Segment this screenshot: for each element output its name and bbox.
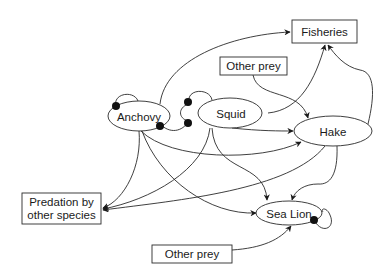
edge-squid-hake — [232, 128, 293, 131]
other-prey-top-label: Other prey — [226, 60, 281, 72]
dot-squid-self — [184, 98, 192, 106]
dot-anchovy-self — [112, 102, 120, 110]
edge-squid-self — [189, 91, 212, 103]
squid-label: Squid — [216, 108, 245, 120]
predation-label-line2: other species — [27, 209, 96, 221]
edge-squid-sealion — [212, 128, 267, 200]
edge-anchovy-predation — [103, 131, 139, 208]
edge-squid-left-curve — [181, 104, 189, 121]
sea-lion-label: Sea Lion — [266, 208, 311, 220]
edge-hake-sealion — [292, 146, 337, 200]
node-other-prey-bottom: Other prey — [152, 245, 232, 263]
edge-hake-predation — [103, 146, 325, 210]
food-web-diagram: Fisheries Other prey Anchovy Squid Hake … — [0, 0, 390, 271]
edge-otherprey2-sealion — [232, 226, 291, 250]
fisheries-label: Fisheries — [301, 26, 348, 38]
hake-label: Hake — [320, 126, 347, 138]
node-fisheries: Fisheries — [292, 20, 357, 43]
node-other-prey-top: Other prey — [220, 57, 287, 75]
node-predation: Predation by other species — [22, 193, 101, 224]
dot-sealion-self — [310, 216, 318, 224]
node-hake: Hake — [294, 116, 372, 146]
edge-squid-fisheries — [268, 45, 325, 113]
other-prey-bottom-label: Other prey — [165, 248, 220, 260]
predation-label-line1: Predation by — [29, 196, 94, 208]
node-squid: Squid — [198, 98, 262, 128]
edge-hake-fisheries — [328, 45, 373, 124]
edge-anchovy-hake — [141, 131, 301, 155]
dot-anchovy-squid-a — [156, 122, 164, 130]
dot-squid-anchovy-b — [184, 119, 192, 127]
anchovy-label: Anchovy — [117, 111, 161, 123]
